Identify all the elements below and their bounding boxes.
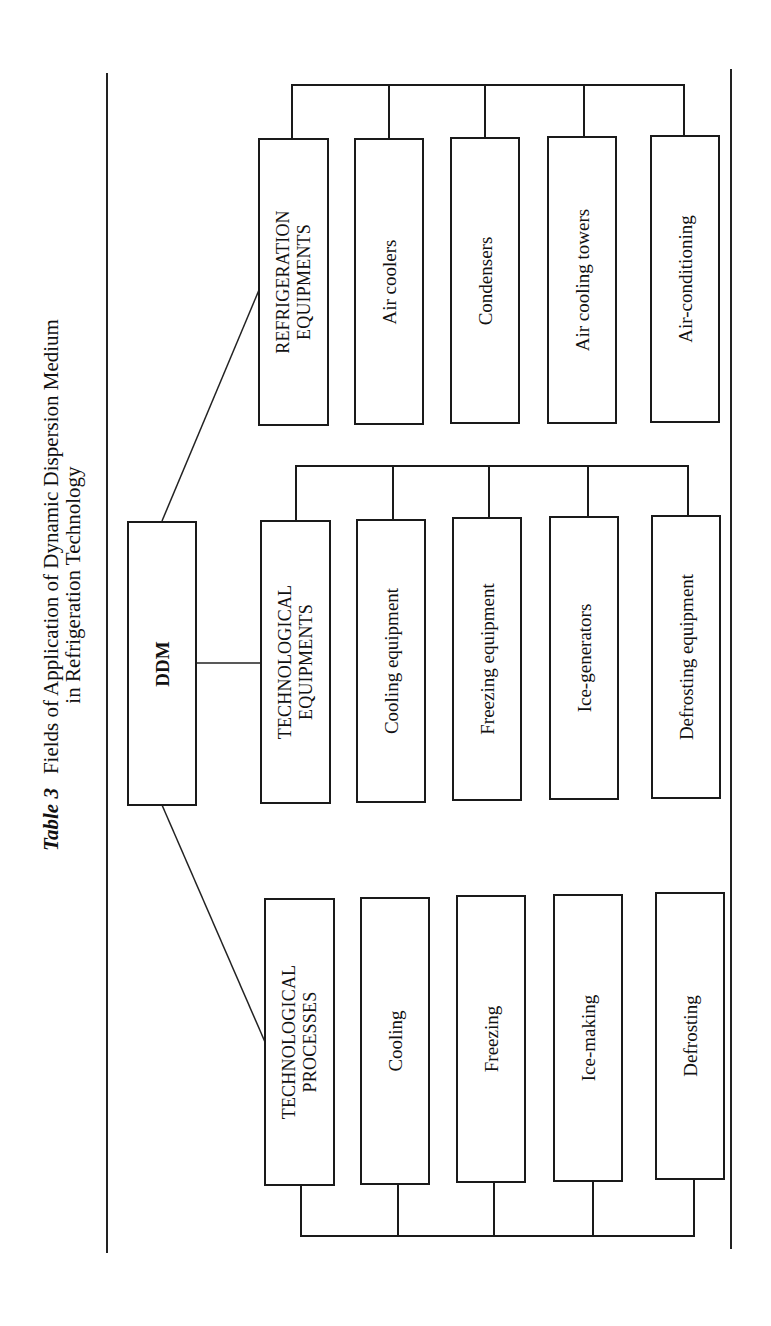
equipments-item-ice-generators: Ice-generators <box>549 516 619 800</box>
refrigeration-item-air-cooling-towers: Air cooling towers <box>547 136 617 424</box>
processes-item-defrosting: Defrosting <box>655 892 725 1180</box>
item-label: Air-conditioning <box>675 215 696 342</box>
item-label: Ice-generators <box>574 604 595 713</box>
refrigeration-bracket-drop-4 <box>683 84 685 136</box>
refrigeration-header-label: REFRIGERATION EQUIPMENTS <box>273 210 315 354</box>
ddm-to-refrigeration-line <box>162 290 259 521</box>
equipments-header-box: TECHNOLOGICAL EQUIPMENTS <box>260 520 331 804</box>
refrigeration-bracket-drop-1 <box>388 84 390 139</box>
table-rule-left <box>106 73 108 1253</box>
item-label: Defrosting <box>680 995 701 1076</box>
processes-bracket-rise-3 <box>592 1181 594 1236</box>
refrigeration-header-box: REFRIGERATION EQUIPMENTS <box>258 138 329 426</box>
table-rule-right <box>730 69 732 1249</box>
refrigeration-bracket-bar <box>291 84 685 86</box>
equipments-header-label: TECHNOLOGICAL EQUIPMENTS <box>275 585 317 740</box>
caption-line-1: Fields of Application of Dynamic Dispers… <box>39 319 63 774</box>
item-label: Freezing <box>481 1006 502 1072</box>
equipments-bracket-drop-4 <box>687 465 689 516</box>
refrigeration-item-air-conditioning: Air-conditioning <box>650 135 720 423</box>
table-number: Table 3 <box>39 788 63 851</box>
processes-item-cooling: Cooling <box>360 897 430 1185</box>
ddm-label: DDM <box>152 641 173 686</box>
processes-item-freezing: Freezing <box>456 895 526 1183</box>
item-label: Cooling <box>385 1010 406 1071</box>
item-label: Ice-making <box>578 995 599 1082</box>
equipments-bracket-bar <box>295 465 689 467</box>
ddm-to-processes-line <box>162 805 265 1042</box>
equipments-item-cooling-equipment: Cooling equipment <box>356 519 426 803</box>
equipments-bracket-drop-0 <box>295 465 297 520</box>
processes-item-ice-making: Ice-making <box>553 894 623 1182</box>
equipments-bracket-drop-3 <box>587 465 589 517</box>
processes-bracket-rise-2 <box>493 1182 495 1236</box>
refrigeration-item-air-coolers: Air coolers <box>354 138 424 425</box>
processes-bracket-rise-0 <box>300 1185 302 1237</box>
processes-bracket-rise-4 <box>693 1180 695 1235</box>
item-label: Defrosting equipment <box>676 574 697 740</box>
ddm-root-box: DDM <box>127 521 197 806</box>
item-label: Cooling equipment <box>381 588 402 734</box>
item-label: Freezing equipment <box>477 583 498 734</box>
item-label: Air coolers <box>379 239 400 324</box>
refrigeration-bracket-drop-0 <box>291 84 293 139</box>
processes-header-label: TECHNOLOGICAL PROCESSES <box>279 965 321 1120</box>
refrigeration-bracket-drop-3 <box>583 84 585 137</box>
caption-line-2: in Refrigeration Technology <box>62 319 84 851</box>
equipments-bracket-drop-2 <box>488 465 490 518</box>
caption-text: Table 3Fields of Application of Dynamic … <box>40 319 84 851</box>
equipments-item-freezing-equipment: Freezing equipment <box>452 517 522 801</box>
processes-bracket-bar <box>300 1235 695 1237</box>
refrigeration-item-condensers: Condensers <box>450 137 520 424</box>
processes-bracket-rise-1 <box>397 1184 399 1236</box>
processes-header-box: TECHNOLOGICAL PROCESSES <box>264 898 335 1186</box>
item-label: Condensers <box>475 236 496 325</box>
refrigeration-bracket-drop-2 <box>484 84 486 138</box>
item-label: Air cooling towers <box>572 209 593 351</box>
equipments-bracket-drop-1 <box>392 465 394 519</box>
equipments-item-defrosting-equipment: Defrosting equipment <box>651 515 721 799</box>
